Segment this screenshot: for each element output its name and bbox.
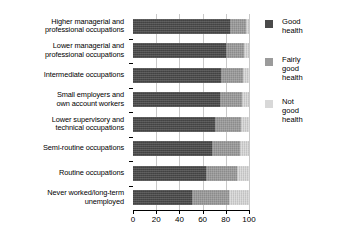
- bar-segment-good-health: [133, 141, 212, 156]
- legend-label: Fairlygoodhealth: [282, 56, 303, 82]
- bar-row: [133, 43, 249, 58]
- x-axis-tick-label: 40: [175, 215, 184, 224]
- category-label-line: professional occupations: [0, 51, 124, 60]
- bar-segment-good-health: [133, 166, 206, 181]
- category-label: Lower managerial andprofessional occupat…: [0, 42, 124, 59]
- legend-label: Goodhealth: [282, 18, 303, 36]
- x-axis-tick-label: 80: [221, 215, 230, 224]
- bar-segment-not-good-health: [246, 19, 249, 34]
- category-label-line: unemployed: [0, 198, 124, 207]
- x-axis-tick: [226, 210, 227, 214]
- category-label: Higher managerial andprofessional occupa…: [0, 18, 124, 35]
- category-tick: [129, 112, 133, 113]
- bar-segment-fairly-good-health: [230, 19, 245, 34]
- bar-segment-not-good-health: [237, 166, 249, 181]
- bar-segment-good-health: [133, 92, 220, 107]
- legend-swatch: [265, 58, 273, 66]
- x-axis-line: [133, 210, 250, 211]
- category-label-line: Intermediate occupations: [0, 71, 124, 80]
- category-tick: [129, 137, 133, 138]
- x-axis-tick: [179, 210, 180, 214]
- legend-label-line: health: [282, 74, 303, 83]
- legend-swatch: [265, 20, 273, 28]
- x-axis-tick: [156, 210, 157, 214]
- category-tick: [129, 186, 133, 187]
- bar-segment-fairly-good-health: [221, 68, 243, 83]
- bar-segment-not-good-health: [242, 92, 249, 107]
- x-axis-tick-label: 100: [242, 215, 255, 224]
- bar-segment-fairly-good-health: [192, 190, 229, 205]
- bar-segment-good-health: [133, 190, 192, 205]
- category-tick: [129, 63, 133, 64]
- plot-area: [133, 14, 249, 210]
- x-axis-tick-label: 0: [131, 215, 135, 224]
- category-label-line: own account workers: [0, 100, 124, 109]
- legend-label-line: health: [282, 27, 303, 36]
- bar-row: [133, 92, 249, 107]
- category-label-line: technical occupations: [0, 124, 124, 133]
- category-tick: [129, 161, 133, 162]
- bar-segment-fairly-good-health: [212, 141, 240, 156]
- x-axis-tick-label: 20: [152, 215, 161, 224]
- bar-row: [133, 117, 249, 132]
- bar-segment-fairly-good-health: [220, 92, 242, 107]
- legend-label: Notgoodhealth: [282, 98, 303, 124]
- bar-segment-not-good-health: [241, 117, 249, 132]
- bar-row: [133, 141, 249, 156]
- category-tick: [129, 88, 133, 89]
- gridline: [249, 14, 250, 210]
- category-axis-labels: Higher managerial andprofessional occupa…: [0, 14, 128, 210]
- bar-row: [133, 190, 249, 205]
- bar-segment-good-health: [133, 68, 221, 83]
- bar-row: [133, 68, 249, 83]
- category-label: Small employers andown account workers: [0, 91, 124, 108]
- x-axis-tick-label: 60: [198, 215, 207, 224]
- category-label-line: Semi-routine occupations: [0, 144, 124, 153]
- legend-swatch: [265, 100, 273, 108]
- bar-segment-fairly-good-health: [215, 117, 241, 132]
- x-axis-tick: [203, 210, 204, 214]
- bar-segment-fairly-good-health: [206, 166, 237, 181]
- category-label: Semi-routine occupations: [0, 144, 124, 153]
- bar-segment-fairly-good-health: [226, 43, 245, 58]
- bar-segment-not-good-health: [244, 43, 249, 58]
- category-label: Never worked/long-termunemployed: [0, 189, 124, 206]
- bar-segment-good-health: [133, 117, 215, 132]
- x-axis-tick: [133, 210, 134, 214]
- category-label-line: professional occupations: [0, 26, 124, 35]
- bar-segment-not-good-health: [229, 190, 249, 205]
- x-axis-tick: [249, 210, 250, 214]
- category-label: Routine occupations: [0, 169, 124, 178]
- bar-segment-good-health: [133, 19, 230, 34]
- category-label: Lower supervisory andtechnical occupatio…: [0, 116, 124, 133]
- bar-segment-good-health: [133, 43, 226, 58]
- bar-row: [133, 19, 249, 34]
- legend-label-line: health: [282, 116, 303, 125]
- stacked-bar-chart: Higher managerial andprofessional occupa…: [0, 0, 338, 239]
- category-label: Intermediate occupations: [0, 71, 124, 80]
- bar-row: [133, 166, 249, 181]
- category-label-line: Routine occupations: [0, 169, 124, 178]
- bar-segment-not-good-health: [243, 68, 249, 83]
- bar-segment-not-good-health: [240, 141, 249, 156]
- category-tick: [129, 39, 133, 40]
